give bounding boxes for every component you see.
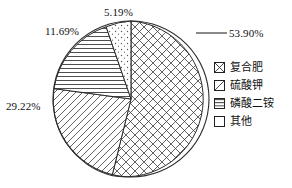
legend-item-linsuanerpi: 磷酸二铵	[214, 94, 292, 112]
legend-swatch-empty-icon	[214, 116, 225, 127]
legend-item-fuhefei: 复合肥	[214, 58, 292, 76]
slice-label-fuhefei: 53.90%	[229, 27, 264, 39]
legend-swatch-horizontal-lines-icon	[214, 98, 225, 109]
legend-swatch-cross-hatch-icon	[214, 62, 225, 73]
legend-item-qita: 其他	[214, 112, 292, 130]
legend-label-qita: 其他	[230, 115, 252, 127]
legend-item-liusuanjia: 硫酸钾	[214, 76, 292, 94]
pie-chart: 5.19% 11.69% 29.22% 53.90% 复合肥 硫酸钾	[0, 0, 292, 188]
legend-label-linsuanerpi: 磷酸二铵	[230, 97, 274, 109]
legend-label-liusuanjia: 硫酸钾	[230, 79, 263, 91]
slice-label-linsuanerpi: 11.69%	[45, 25, 79, 37]
legend-swatch-diagonal-lines-icon	[214, 80, 225, 91]
slice-label-liusuanjia: 29.22%	[6, 100, 41, 112]
legend-label-fuhefei: 复合肥	[230, 61, 263, 73]
slice-label-qita: 5.19%	[104, 6, 133, 18]
chart-legend: 复合肥 硫酸钾 磷酸二铵 其他	[214, 58, 292, 130]
